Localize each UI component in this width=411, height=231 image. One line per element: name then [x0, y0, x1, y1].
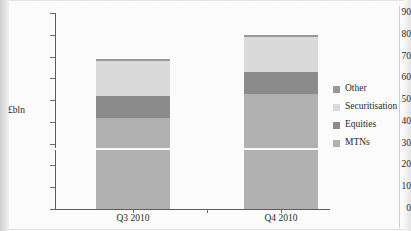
legend-item-other: Other	[333, 80, 409, 98]
bar-segment-other	[96, 59, 170, 61]
scan-white-artifact-line	[40, 148, 360, 150]
bar-segment-equities	[96, 96, 170, 118]
y-tick-mark	[50, 122, 55, 123]
x-tick-mark-midpoint	[207, 209, 208, 213]
y-tick-label: 10	[365, 182, 411, 192]
x-tick-label: Q3 2010	[88, 213, 178, 223]
legend-swatch-icon	[333, 104, 340, 111]
y-tick-mark	[50, 35, 55, 36]
y-axis-line	[55, 13, 56, 210]
y-tick-label: 70	[365, 52, 411, 62]
legend-item-label: Securitisation	[345, 102, 397, 112]
y-axis-title: £bln	[8, 105, 25, 115]
bar-q3-2010	[96, 13, 170, 209]
legend-swatch-icon	[333, 140, 340, 147]
y-tick-mark	[50, 209, 55, 210]
y-tick-mark	[50, 13, 55, 14]
x-axis-line	[55, 209, 330, 210]
bar-segment-mtns	[96, 118, 170, 209]
y-tick-mark	[50, 100, 55, 101]
y-tick-mark	[50, 57, 55, 58]
chart-legend: OtherSecuritisationEquitiesMTNs	[333, 80, 409, 152]
y-tick-label: 20	[365, 160, 411, 170]
legend-item-label: Equities	[345, 120, 376, 130]
y-tick-label: 90	[365, 8, 411, 18]
legend-item-equities: Equities	[333, 116, 409, 134]
legend-item-securitisation: Securitisation	[333, 98, 409, 116]
bar-segment-mtns	[244, 94, 318, 209]
bar-segment-securitisation	[96, 61, 170, 96]
bar-q4-2010	[244, 13, 318, 209]
y-tick-mark	[50, 144, 55, 145]
legend-swatch-icon	[333, 86, 340, 93]
chart-figure: £bln 9080706050403020100 Q3 2010Q4 2010 …	[0, 0, 411, 231]
bar-segment-equities	[244, 72, 318, 94]
y-tick-mark	[50, 187, 55, 188]
y-tick-mark	[50, 165, 55, 166]
legend-item-label: Other	[345, 84, 367, 94]
bar-segment-securitisation	[244, 37, 318, 72]
x-tick-label: Q4 2010	[236, 213, 326, 223]
y-tick-label: 0	[365, 204, 411, 214]
legend-swatch-icon	[333, 122, 340, 129]
bar-segment-other	[244, 35, 318, 37]
legend-item-label: MTNs	[345, 138, 370, 148]
y-tick-mark	[50, 78, 55, 79]
y-tick-label: 80	[365, 30, 411, 40]
